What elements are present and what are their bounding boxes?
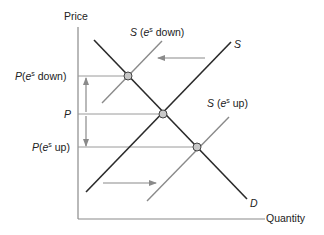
label-s-e-up: S (es up) <box>207 97 248 109</box>
label-p-e-down: P(es down) <box>15 70 66 82</box>
equilibrium <box>159 110 167 118</box>
supply-curve <box>86 42 231 192</box>
supply-demand-diagram: Price Quantity S (es down) S S (es up) D… <box>0 0 324 235</box>
supply-e-down-curve <box>102 41 162 103</box>
y-axis-label: Price <box>64 10 88 22</box>
demand-curve <box>94 40 247 199</box>
label-p-e-up: P(es up) <box>32 141 70 153</box>
label-s: S <box>234 38 241 50</box>
label-s-e-down: S (es down) <box>130 26 184 38</box>
equilibrium-e-down <box>124 72 132 80</box>
equilibrium-e-up <box>193 143 201 151</box>
label-p: P <box>64 108 71 120</box>
x-axis-label: Quantity <box>266 212 306 224</box>
supply-e-up-curve <box>147 117 229 201</box>
label-d: D <box>250 197 258 209</box>
